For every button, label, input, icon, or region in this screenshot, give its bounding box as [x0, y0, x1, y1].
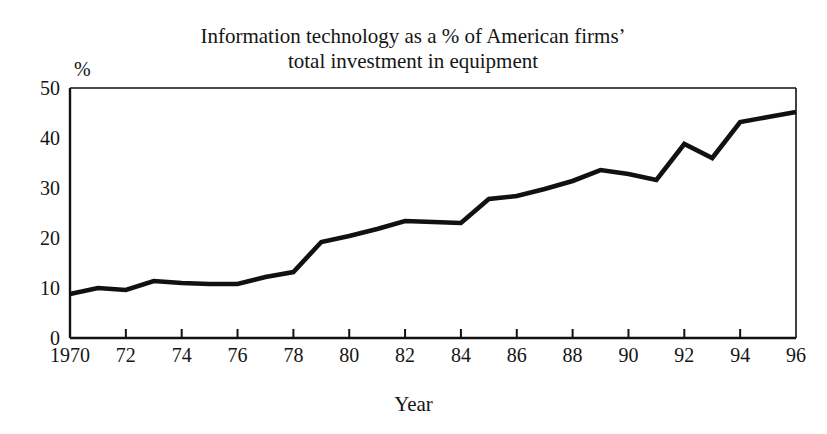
y-tick-label-40: 40	[18, 127, 60, 150]
y-tick-label-20: 20	[18, 227, 60, 250]
data-series-line	[70, 112, 796, 294]
x-tick-label-90: 90	[618, 344, 638, 367]
y-tick-label-50: 50	[18, 77, 60, 100]
y-tick-label-10: 10	[18, 277, 60, 300]
x-tick-label-76: 76	[228, 344, 248, 367]
x-tick-label-94: 94	[730, 344, 750, 367]
x-tick-label-78: 78	[283, 344, 303, 367]
x-tick-label-80: 80	[339, 344, 359, 367]
x-tick-label-74: 74	[172, 344, 192, 367]
axis-lines	[70, 88, 796, 338]
x-tick-label-82: 82	[395, 344, 415, 367]
plot-area	[0, 0, 827, 434]
x-tick-label-96: 96	[786, 344, 806, 367]
x-tick-label-84: 84	[451, 344, 471, 367]
x-tick-label-72: 72	[116, 344, 136, 367]
x-axis-title: Year	[0, 392, 827, 417]
x-tick-label-1970: 1970	[50, 344, 90, 367]
x-tick-label-92: 92	[674, 344, 694, 367]
y-tick-label-30: 30	[18, 177, 60, 200]
x-axis-ticks	[70, 329, 740, 338]
chart-figure: Information technology as a % of America…	[0, 0, 827, 434]
x-tick-label-86: 86	[507, 344, 527, 367]
x-tick-label-88: 88	[563, 344, 583, 367]
